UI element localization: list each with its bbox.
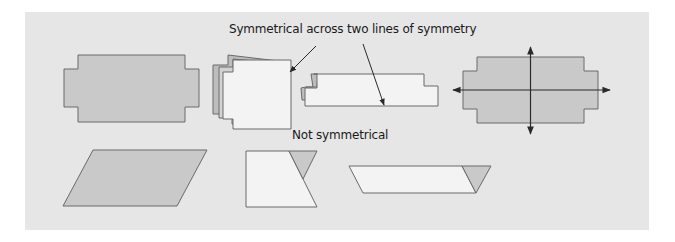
stepped-rectangle-folded-vertical xyxy=(213,55,291,129)
stepped-rectangle-with-axes xyxy=(453,47,610,134)
parallelogram-folded-horizontal xyxy=(349,166,491,193)
not-symmetrical-label: Not symmetrical xyxy=(292,128,388,142)
parallelogram xyxy=(63,150,207,206)
label-arrow-left xyxy=(290,46,316,72)
symmetry-diagram xyxy=(0,0,675,242)
parallelogram-folded-vertical xyxy=(246,151,317,207)
stepped-rectangle xyxy=(64,55,199,122)
stepped-rectangle-folded-horizontal xyxy=(301,74,438,106)
symmetrical-label: Symmetrical across two lines of symmetry xyxy=(229,22,476,36)
